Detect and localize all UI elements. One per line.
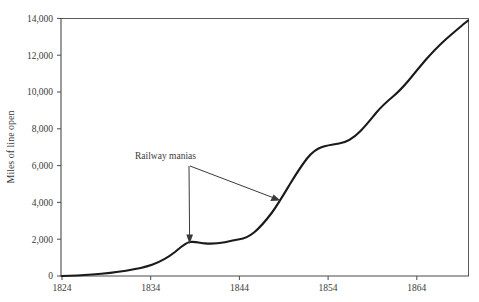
railway-miles-line-chart: 0 2,000 4,000 6,000 8,000 10,000 12,000 … <box>0 0 479 302</box>
y-tick-label-8000: 8,000 <box>32 124 54 134</box>
y-tick-label-12000: 12,000 <box>27 51 53 61</box>
y-tick-label-6000: 6,000 <box>32 161 54 171</box>
x-tick-label-1834: 1834 <box>141 283 160 293</box>
x-tick-label-1824: 1824 <box>53 283 72 293</box>
y-tick-label-2000: 2,000 <box>32 235 54 245</box>
y-tick-label-14000: 14,000 <box>27 14 53 24</box>
chart-background <box>0 0 479 302</box>
y-tick-label-10000: 10,000 <box>27 87 53 97</box>
y-axis-title: Miles of line open <box>5 110 16 183</box>
first-mania-arrow-shaft <box>189 166 190 237</box>
x-tick-label-1854: 1854 <box>319 283 338 293</box>
chart-figure: 0 2,000 4,000 6,000 8,000 10,000 12,000 … <box>0 0 479 302</box>
x-tick-label-1864: 1864 <box>407 283 426 293</box>
y-tick-label-0: 0 <box>48 271 53 281</box>
annotation-label: Railway manias <box>135 151 196 161</box>
x-tick-label-1844: 1844 <box>230 283 249 293</box>
y-tick-label-4000: 4,000 <box>32 198 54 208</box>
